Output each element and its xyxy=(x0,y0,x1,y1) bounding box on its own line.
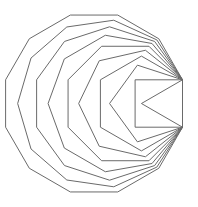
polygon-7-sides xyxy=(79,50,183,157)
polygon-group xyxy=(6,15,183,192)
polygon-8-sides xyxy=(68,46,182,160)
nested-polygons-diagram xyxy=(0,0,198,207)
polygon-5-sides xyxy=(110,65,183,142)
polygon-3-sides xyxy=(141,80,182,127)
